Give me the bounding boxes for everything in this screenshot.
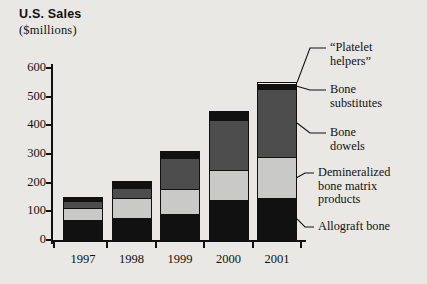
y-tick-label: 100: [27, 203, 46, 218]
bar-segment: [112, 188, 152, 199]
callout-label: Bone substitutes: [330, 83, 382, 110]
bar-segment: [63, 208, 103, 219]
callout-label: Bone dowels: [330, 126, 365, 153]
bar-segment: [63, 197, 103, 201]
chart-figure: U.S. Sales ($millions) 01002003004005006…: [0, 0, 427, 284]
y-tick: [46, 153, 53, 155]
y-tick: [46, 96, 53, 98]
x-tick: [155, 242, 157, 248]
x-tick: [203, 242, 205, 248]
x-tick-label: 1997: [71, 252, 96, 267]
y-tick: [46, 182, 53, 184]
bar-segment: [112, 218, 152, 240]
x-tick-label: 1998: [119, 252, 144, 267]
y-tick: [46, 124, 53, 126]
callout-label: Demineralized bone matrix products: [318, 166, 390, 207]
callout-label: Allograft bone: [318, 220, 390, 234]
x-tick: [252, 242, 254, 248]
bar-segment: [209, 200, 249, 240]
y-tick-label: 300: [27, 146, 46, 161]
bar-segment: [63, 201, 103, 208]
bar-segment: [112, 198, 152, 217]
plot-area: 0100200300400500600 19971998199920002001: [51, 68, 307, 240]
x-tick-label: 2000: [216, 252, 241, 267]
bar-segment: [257, 89, 297, 158]
chart-subtitle: ($millions): [19, 23, 77, 38]
x-tick: [300, 242, 302, 248]
y-tick-label: 600: [27, 60, 46, 75]
y-tick-label: 500: [27, 89, 46, 104]
bar-segment: [209, 111, 249, 120]
y-tick-label: 400: [27, 117, 46, 132]
bar-segment: [209, 170, 249, 200]
bar-segment: [257, 157, 297, 197]
callout-label: “Platelet helpers”: [330, 41, 372, 68]
x-tick: [53, 242, 55, 248]
bar-2001: [257, 81, 297, 240]
bar-segment: [63, 220, 103, 240]
x-tick-label: 1999: [168, 252, 193, 267]
x-axis-line: [51, 240, 306, 242]
bar-2000: [209, 111, 249, 240]
x-tick-label: 2001: [265, 252, 290, 267]
bar-segment: [209, 120, 249, 169]
y-axis-labels: 0100200300400500600: [3, 68, 46, 240]
bar-1998: [112, 181, 152, 240]
bar-1999: [160, 151, 200, 240]
chart-title: U.S. Sales: [19, 7, 81, 21]
y-tick-label: 200: [27, 175, 46, 190]
bar-segment: [257, 84, 297, 89]
bar-segment: [112, 181, 152, 187]
bar-segment: [160, 214, 200, 240]
bar-segment: [257, 82, 297, 84]
bar-1997: [63, 197, 103, 240]
y-tick: [46, 239, 53, 241]
y-tick: [46, 67, 53, 69]
bar-segment: [160, 151, 200, 158]
bar-segment: [160, 189, 200, 214]
y-tick: [46, 210, 53, 212]
bar-segment: [160, 158, 200, 189]
bar-segment: [257, 198, 297, 240]
x-tick: [106, 242, 108, 248]
